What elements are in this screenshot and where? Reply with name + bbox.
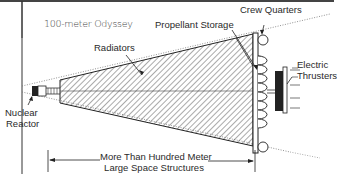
electric-thrusters-block bbox=[275, 71, 283, 111]
dimension-label-line2: Large Space Structures bbox=[100, 163, 208, 173]
nuclear-reactor-core bbox=[32, 86, 38, 96]
spine bbox=[253, 33, 258, 153]
radiators-label: Radiators bbox=[94, 43, 135, 53]
electric-thrusters-label-line1: Electric bbox=[297, 60, 328, 70]
crew-quarters-label: Crew Quarters bbox=[240, 5, 302, 15]
nuclear-reactor-label-line2: Reactor bbox=[6, 119, 39, 129]
diagram-title: 100-meter Odyssey bbox=[44, 18, 133, 29]
crew-quarters-top bbox=[258, 35, 268, 45]
radiator-panel bbox=[60, 34, 253, 146]
electric-thrusters-label-line2: Thrusters bbox=[297, 71, 337, 81]
propellant-storage-label: Propellant Storage bbox=[155, 20, 234, 30]
crew-quarters-bottom bbox=[258, 142, 268, 152]
dimension-label-line1: More Than Hundred Meter bbox=[100, 152, 208, 162]
propellant-tanks bbox=[258, 56, 267, 128]
nuclear-reactor-label-line1: Nuclear bbox=[5, 108, 38, 118]
